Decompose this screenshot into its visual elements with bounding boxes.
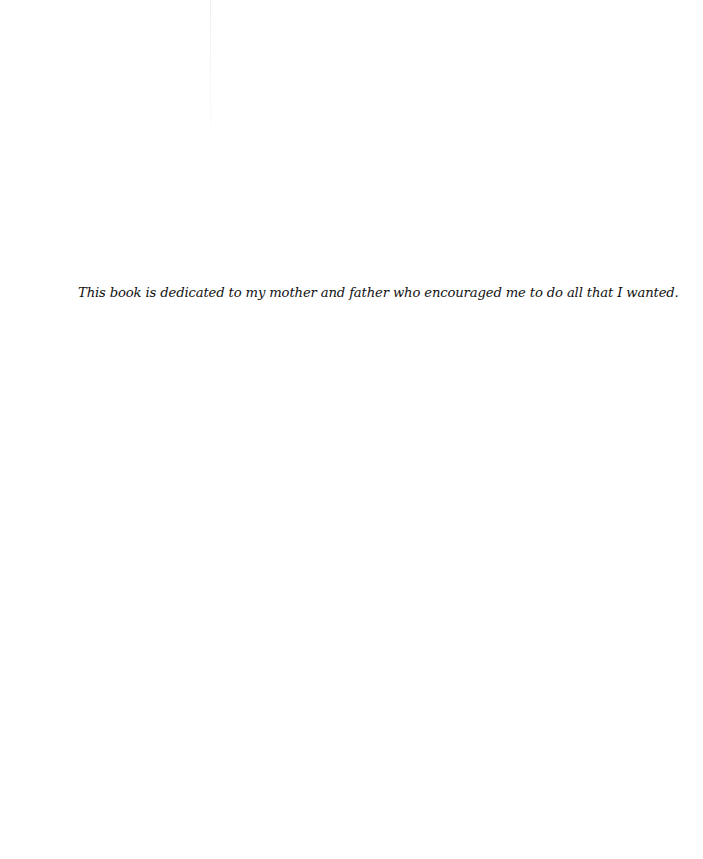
- dedication-text: This book is dedicated to my mother and …: [78, 284, 679, 302]
- document-page: This book is dedicated to my mother and …: [0, 0, 703, 859]
- scan-artifact-line: [210, 0, 211, 150]
